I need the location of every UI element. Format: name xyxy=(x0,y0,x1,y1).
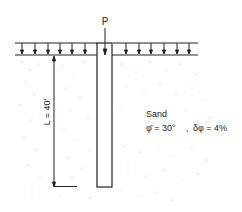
soil-delta: δφ = 4% xyxy=(193,123,227,133)
soil-phi: φ̄ = 30° xyxy=(146,123,176,133)
soil-stipple xyxy=(19,61,210,200)
soil-name: Sand xyxy=(146,109,167,119)
point-load-arrow xyxy=(103,28,106,55)
length-dimension xyxy=(53,56,78,187)
surcharge-arrows-right xyxy=(125,43,191,54)
load-label: P xyxy=(102,16,109,27)
pile xyxy=(97,43,112,187)
length-label: L = 40' xyxy=(42,98,52,125)
pile-diagram: P L = 40' Sand φ̄ = 30° , δφ = 4% xyxy=(0,0,242,212)
surcharge-arrows-left xyxy=(21,43,87,54)
soil-separator: , xyxy=(186,123,189,133)
soil-properties: Sand φ̄ = 30° , δφ = 4% xyxy=(146,109,227,133)
